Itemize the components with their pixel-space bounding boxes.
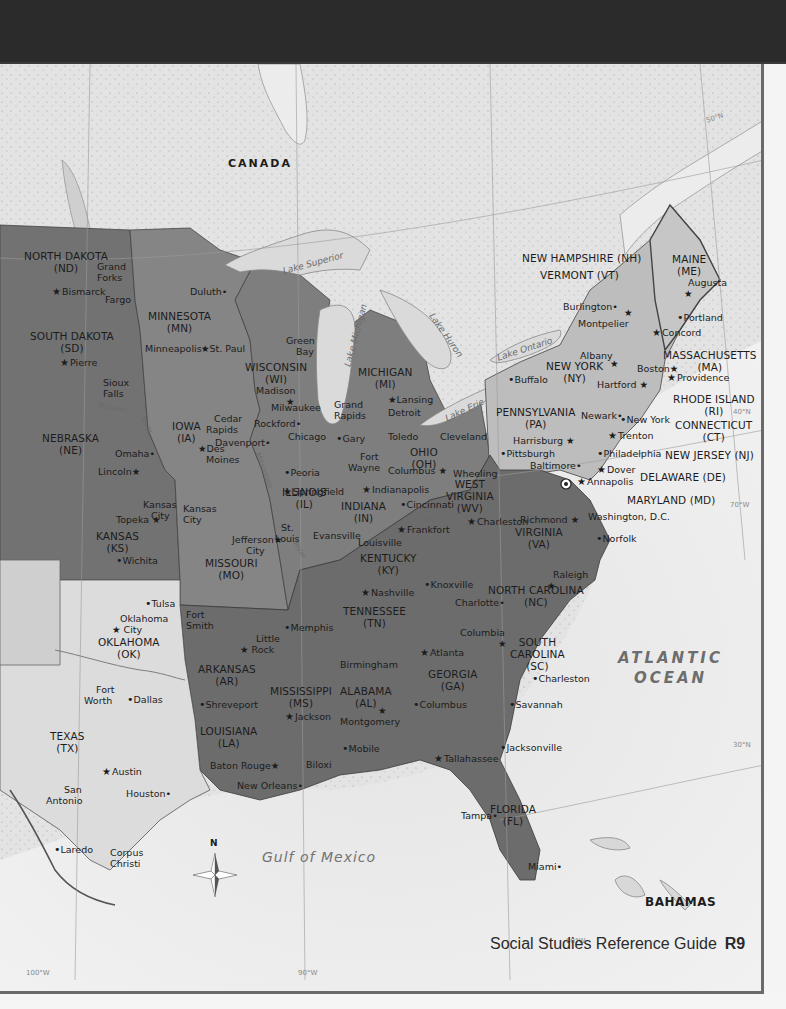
city-fort-worth: FortWorth bbox=[84, 685, 115, 706]
city-name: Montpelier bbox=[578, 318, 629, 329]
state-name: ARKANSAS bbox=[198, 663, 256, 675]
city-name-2: City bbox=[246, 546, 282, 557]
city-name: Birmingham bbox=[340, 659, 398, 670]
city-dallas: Dallas bbox=[127, 695, 163, 706]
state-abbr: (TX) bbox=[50, 742, 85, 754]
city-name: Tallahassee bbox=[444, 753, 499, 764]
capital-baton-rouge: Baton Rouge★ bbox=[210, 761, 279, 772]
city-cleveland: Cleveland bbox=[440, 432, 487, 443]
capital-columbus-oh: Columbus ★ bbox=[388, 466, 447, 477]
city-name: Sioux bbox=[103, 378, 129, 389]
city-grand-rapids: GrandRapids bbox=[334, 400, 366, 421]
city-detroit: Detroit bbox=[388, 408, 421, 419]
state-arkansas: ARKANSAS(AR) bbox=[198, 663, 256, 687]
state-pennsylvania: PENNSYLVANIA(PA) bbox=[496, 406, 575, 430]
city-name: Buffalo bbox=[515, 374, 548, 385]
dark-page-edge bbox=[0, 0, 786, 64]
city-chicago: Chicago bbox=[288, 432, 326, 443]
city-pittsburgh: Pittsburgh bbox=[500, 449, 555, 460]
capital-lansing: ★Lansing bbox=[388, 395, 433, 406]
city-charlotte: Charlotte• bbox=[455, 598, 505, 609]
city-name: Peoria bbox=[291, 467, 320, 478]
city-fort-smith: FortSmith bbox=[186, 610, 214, 631]
city-cincinnati: Cincinnati bbox=[400, 500, 454, 511]
state-abbr: (KS) bbox=[96, 542, 139, 554]
state-virginia: VIRGINIA(VA) bbox=[515, 526, 563, 550]
city-name-2: Rapids bbox=[334, 411, 366, 422]
state-name: MINNESOTA bbox=[148, 310, 211, 322]
state-abbr: (MN) bbox=[148, 322, 211, 334]
city-name: San bbox=[64, 785, 83, 796]
city-kansas-city-mo: KansasCity bbox=[183, 504, 217, 525]
capital-bismarck: Bismarck bbox=[52, 287, 106, 298]
state-abbr: (VA) bbox=[515, 538, 563, 550]
state-abbr: (IA) bbox=[172, 432, 201, 444]
state-texas: TEXAS(TX) bbox=[50, 730, 85, 754]
coord-90w: 90°W bbox=[298, 968, 317, 979]
city-name-2: Louis bbox=[275, 534, 300, 545]
coord-70w: 70°W bbox=[730, 500, 749, 511]
city-knoxville: Knoxville bbox=[424, 580, 473, 591]
state-name: MICHIGAN bbox=[358, 366, 412, 378]
city-name-2: Bay bbox=[296, 347, 315, 358]
capital-augusta: Augusta★ bbox=[684, 278, 727, 299]
city-name: Lansing bbox=[397, 394, 434, 405]
city-name: Wichita bbox=[123, 555, 158, 566]
city-name: Hartford bbox=[597, 379, 637, 390]
state-name: MISSISSIPPI bbox=[270, 685, 332, 697]
state-new-jersey: NEW JERSEY (NJ) bbox=[665, 449, 754, 461]
city-portland: Portland bbox=[677, 313, 723, 324]
city-name: St. bbox=[281, 523, 300, 534]
city-name: Houston bbox=[126, 788, 165, 799]
state-abbr: (MO) bbox=[205, 569, 258, 581]
state-kentucky: KENTUCKY(KY) bbox=[360, 552, 417, 576]
state-name: INDIANA bbox=[341, 500, 386, 512]
city-savannah: Savannah bbox=[509, 700, 563, 711]
state-name: TEXAS bbox=[50, 730, 85, 742]
city-name: Trenton bbox=[618, 430, 654, 441]
city-name: Toledo bbox=[388, 431, 418, 442]
city-name: Madison bbox=[256, 385, 295, 396]
city-name: Portland bbox=[684, 312, 723, 323]
city-name: Jackson bbox=[295, 711, 331, 722]
city-name: Shreveport bbox=[206, 699, 259, 710]
capital-concord: Concord bbox=[652, 328, 701, 339]
city-milwaukee: Milwaukee bbox=[271, 403, 321, 414]
city-name: Lincoln bbox=[98, 466, 132, 477]
state-kansas: KANSAS(KS) bbox=[96, 530, 139, 554]
state-name: CONNECTICUT bbox=[675, 419, 752, 431]
capital-pierre: Pierre bbox=[60, 358, 97, 369]
city-name: Cedar bbox=[214, 414, 242, 425]
city-baltimore: Baltimore• bbox=[530, 461, 582, 472]
city-name: Fargo bbox=[105, 294, 131, 305]
city-duluth: Duluth• bbox=[190, 287, 227, 298]
state-abbr: (IL) bbox=[282, 498, 327, 510]
footer-title: Social Studies Reference Guide bbox=[490, 935, 717, 952]
capital-oklahoma-city: Oklahoma★ City bbox=[120, 614, 168, 635]
city-name: Columbus bbox=[388, 465, 435, 476]
city-name: Minneapolis bbox=[145, 343, 202, 354]
city-name: Raleigh bbox=[553, 569, 588, 580]
city-name: Boston bbox=[637, 363, 670, 374]
state-maryland: MARYLAND (MD) bbox=[627, 494, 715, 506]
city-name: Frankfort bbox=[407, 524, 450, 535]
coord-100w: 100°W bbox=[26, 968, 50, 979]
city-sioux-falls: SiouxFalls bbox=[103, 378, 129, 399]
city-name: Annapolis bbox=[587, 476, 633, 487]
compass-north-label: N bbox=[210, 838, 218, 849]
capital-raleigh: Raleigh★ bbox=[547, 570, 588, 591]
city-name: Laredo bbox=[61, 844, 94, 855]
city-name-2: Worth bbox=[84, 696, 115, 707]
capital-montgomery: ★Montgomery bbox=[340, 706, 400, 727]
state-name: MISSOURI bbox=[205, 557, 258, 569]
city-tulsa: Tulsa bbox=[145, 599, 175, 610]
state-abbr: (KY) bbox=[360, 564, 417, 576]
state-abbr: (WI) bbox=[245, 373, 307, 385]
city-name-2: Rock bbox=[252, 644, 275, 655]
city-name: Green bbox=[286, 336, 315, 347]
city-name: Providence bbox=[677, 372, 729, 383]
city-name: Tampa bbox=[461, 810, 492, 821]
capital-washington-dc: Washington, D.C. bbox=[588, 512, 670, 523]
city-birmingham: Birmingham bbox=[340, 660, 398, 671]
state-north-dakota: NORTH DAKOTA(ND) bbox=[24, 250, 108, 274]
